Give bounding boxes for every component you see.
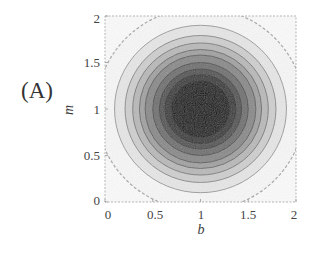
contour-figure: (A) 2 1.5 1 0.5 0 0 0.5 1 1.5 2 m b [0, 0, 314, 257]
plot-area [96, 8, 304, 211]
y-tick-label: 1.5 [70, 56, 100, 70]
y-tick-label: 0 [70, 194, 100, 208]
contour-level-10 [181, 90, 219, 127]
y-axis-label: m [62, 103, 76, 117]
x-tick-label: 1 [186, 208, 216, 222]
x-tick-label: 2 [279, 208, 309, 222]
x-axis-label: b [195, 223, 207, 237]
x-tick-label: 0 [93, 208, 123, 222]
x-tick-label: 1.5 [233, 208, 263, 222]
panel-label: (A) [21, 78, 53, 104]
y-tick-label: 2 [70, 12, 100, 26]
y-tick-label: 0.5 [70, 149, 100, 163]
x-tick-label: 0.5 [140, 208, 170, 222]
